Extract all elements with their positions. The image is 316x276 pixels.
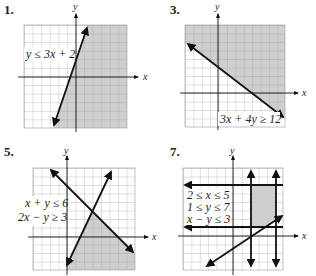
inequality-label-1: y ≤ 3x + 2 — [25, 47, 75, 61]
y-axis-label-3: y — [214, 1, 220, 12]
graph-1: y ≤ 3x + 2 x y — [18, 1, 148, 132]
graph-3: 3x + 4y ≥ 12 x y — [180, 1, 307, 130]
inequality-label-5a: x + y ≤ 6 — [24, 196, 68, 210]
y-axis-label-5: y — [63, 145, 69, 156]
graph-7: 2 ≤ x ≤ 5 1 ≤ y ≤ 7 x − y ≤ 3 x y — [178, 145, 307, 275]
grid-1 — [24, 25, 127, 128]
x-axis-label-7: x — [301, 230, 307, 241]
x-axis-label-1: x — [142, 71, 148, 82]
inequality-label-3: 3x + 4y ≥ 12 — [219, 112, 281, 126]
inequality-label-5b: 2x − y ≥ 3 — [18, 210, 67, 224]
graph-5: x + y ≤ 6 2x − y ≥ 3 x y — [18, 145, 157, 275]
y-axis-label-1: y — [72, 1, 78, 12]
x-axis-label-5: x — [151, 231, 157, 242]
graphs-canvas: y ≤ 3x + 2 x y 3x + 4y ≥ 12 x y x + y ≤ … — [0, 0, 316, 276]
y-axis-label-7: y — [229, 145, 235, 156]
x-axis-label-3: x — [301, 87, 307, 98]
inequality-label-7c: x − y ≤ 3 — [186, 212, 230, 226]
